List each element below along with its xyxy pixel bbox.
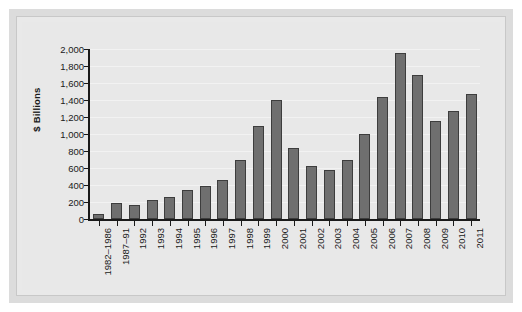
x-axis-tick-mark: [312, 221, 313, 226]
bar: [271, 100, 282, 219]
x-axis-tick-label: 1997: [227, 228, 237, 249]
x-axis-tick-label: 2010: [457, 228, 467, 249]
x-axis-tick-mark: [418, 221, 419, 226]
x-axis-tick-labels: 1982–19861987–91199219931994199519961997…: [90, 228, 480, 298]
bar: [395, 53, 406, 219]
x-axis-tick-mark: [152, 221, 153, 226]
y-axis-tick-label: 1,800: [40, 61, 84, 72]
y-axis-tick-label: 2,000: [40, 44, 84, 55]
x-axis-tick-mark: [205, 221, 206, 226]
y-axis-tick-label: 1,200: [40, 112, 84, 123]
bar: [377, 97, 388, 219]
x-axis-tick-label: 1996: [209, 228, 219, 249]
y-axis-tick-label: 1,600: [40, 78, 84, 89]
y-axis-tick-mark: [84, 134, 89, 135]
bar: [217, 180, 228, 219]
y-axis-tick-mark: [84, 185, 89, 186]
y-axis-tick-label: 600: [40, 163, 84, 174]
x-axis-tick-label: 2004: [351, 228, 361, 249]
x-axis-tick-mark: [471, 221, 472, 226]
x-axis-tick-mark: [365, 221, 366, 226]
x-axis-tick-label: 1995: [192, 228, 202, 249]
y-axis-tick-label: 1,400: [40, 95, 84, 106]
x-axis-tick-label: 2008: [422, 228, 432, 249]
y-axis-tick-label: 200: [40, 197, 84, 208]
x-axis-tick-label: 1992: [138, 228, 148, 249]
bar: [129, 205, 140, 219]
bar: [430, 121, 441, 219]
bar-series: [90, 49, 480, 219]
y-axis-tick-mark: [84, 168, 89, 169]
x-axis-tick-label: 1987–91: [121, 228, 131, 265]
x-axis-tick-mark: [223, 221, 224, 226]
x-axis-tick-label: 1982–1986: [103, 228, 113, 276]
y-axis-tick-label: 1,000: [40, 129, 84, 140]
bar: [306, 166, 317, 219]
x-axis-tick-label: 2009: [440, 228, 450, 249]
y-axis-tick-mark: [84, 83, 89, 84]
bar: [288, 148, 299, 219]
y-axis-tick-mark: [84, 151, 89, 152]
x-axis-tick-label: 2005: [369, 228, 379, 249]
bar: [235, 160, 246, 219]
bar-chart: $ Billions 02004006008001,0001,2001,4001…: [0, 0, 522, 312]
bar: [342, 160, 353, 220]
x-axis-tick-label: 2006: [387, 228, 397, 249]
x-axis-tick-label: 2007: [404, 228, 414, 249]
x-axis-tick-mark: [329, 221, 330, 226]
x-axis-tick-mark: [400, 221, 401, 226]
y-axis-tick-mark: [84, 100, 89, 101]
y-axis-tick-mark: [84, 219, 89, 220]
bar: [147, 200, 158, 219]
bar: [200, 186, 211, 219]
bar: [359, 134, 370, 219]
x-axis-tick-mark: [383, 221, 384, 226]
x-axis-tick-mark: [258, 221, 259, 226]
x-axis-tick-label: 1993: [156, 228, 166, 249]
x-axis-tick-label: 1998: [245, 228, 255, 249]
bar: [182, 190, 193, 219]
x-axis-tick-label: 2000: [280, 228, 290, 249]
x-axis-tick-mark: [117, 221, 118, 226]
x-axis-tick-label: 2011: [475, 228, 485, 248]
x-axis-line: [88, 219, 480, 221]
bar: [111, 203, 122, 219]
bar: [324, 170, 335, 219]
y-axis-tick-label: 800: [40, 146, 84, 157]
x-axis-tick-mark: [294, 221, 295, 226]
bar: [253, 126, 264, 219]
x-axis-tick-mark: [347, 221, 348, 226]
bar: [448, 111, 459, 219]
y-axis-tick-label: 0: [40, 214, 84, 225]
bar: [412, 75, 423, 220]
x-axis-tick-mark: [134, 221, 135, 226]
x-axis-tick-mark: [188, 221, 189, 226]
x-axis-tick-mark: [453, 221, 454, 226]
y-axis-tick-labels: 02004006008001,0001,2001,4001,6001,8002,…: [40, 44, 84, 226]
chart-figure: $ Billions 02004006008001,0001,2001,4001…: [0, 0, 522, 312]
x-axis-tick-label: 1999: [262, 228, 272, 249]
y-axis-tick-mark: [84, 49, 89, 50]
y-axis-tick-mark: [84, 66, 89, 67]
x-axis-tick-mark: [276, 221, 277, 226]
bar: [164, 197, 175, 219]
y-axis-tick-label: 400: [40, 180, 84, 191]
x-axis-tick-mark: [99, 221, 100, 226]
x-axis-tick-label: 2003: [333, 228, 343, 249]
bar: [466, 94, 477, 219]
bar: [93, 214, 104, 219]
x-axis-tick-mark: [241, 221, 242, 226]
x-axis-tick-label: 2002: [316, 228, 326, 249]
x-axis-tick-mark: [436, 221, 437, 226]
y-axis-tick-mark: [84, 202, 89, 203]
x-axis-tick-label: 1994: [174, 228, 184, 249]
x-axis-tick-mark: [170, 221, 171, 226]
x-axis-tick-label: 2001: [298, 228, 308, 249]
y-axis-tick-mark: [84, 117, 89, 118]
